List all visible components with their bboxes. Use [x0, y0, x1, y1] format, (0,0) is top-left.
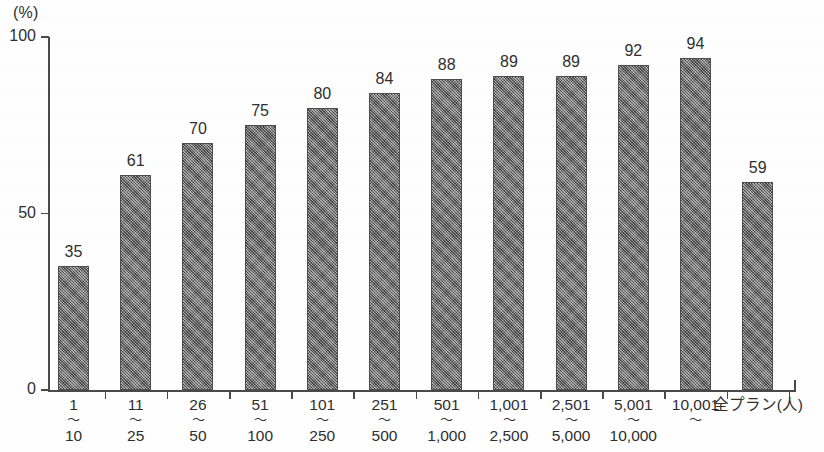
- bar-value-label: 70: [168, 120, 228, 138]
- y-axis-tick: [41, 213, 49, 215]
- bar: [556, 76, 587, 390]
- bar-value-label: 84: [355, 70, 415, 88]
- y-axis-tick-label: 50: [0, 204, 36, 222]
- y-axis-tick-label: 100: [0, 27, 36, 45]
- bar: [58, 266, 89, 390]
- bar-value-label: 75: [230, 102, 290, 120]
- y-axis-unit-label: (%): [13, 4, 38, 22]
- bar-value-label: 59: [728, 159, 788, 177]
- bar-value-label: 92: [603, 42, 663, 60]
- bar: [120, 175, 151, 390]
- bar: [307, 108, 338, 390]
- bar-value-label: 80: [292, 85, 352, 103]
- bar: [618, 65, 649, 390]
- bar-value-label: 94: [666, 35, 726, 53]
- bar-value-label: 89: [479, 53, 539, 71]
- category-range-end: 10,000: [588, 427, 678, 444]
- x-axis-end-cap: [794, 380, 796, 391]
- bar-value-label: 61: [106, 152, 166, 170]
- bar: [493, 76, 524, 390]
- x-axis-line: [48, 390, 796, 392]
- bar: [742, 182, 773, 390]
- category-range-tilde: 〜: [651, 413, 741, 427]
- y-axis-tick: [41, 389, 49, 391]
- y-axis-tick: [41, 36, 49, 38]
- category-range-start: 全プラン(人): [713, 396, 803, 413]
- bar-chart: (%) 050100 356170758084888989929459 1〜10…: [0, 0, 824, 452]
- bar: [369, 93, 400, 390]
- bar-value-label: 89: [541, 53, 601, 71]
- bar: [431, 79, 462, 390]
- bar-value-label: 35: [44, 243, 104, 261]
- bar-value-label: 88: [417, 56, 477, 74]
- x-axis-category-label: 全プラン(人): [713, 396, 803, 413]
- bar: [245, 125, 276, 390]
- bar: [680, 58, 711, 390]
- bar: [182, 143, 213, 390]
